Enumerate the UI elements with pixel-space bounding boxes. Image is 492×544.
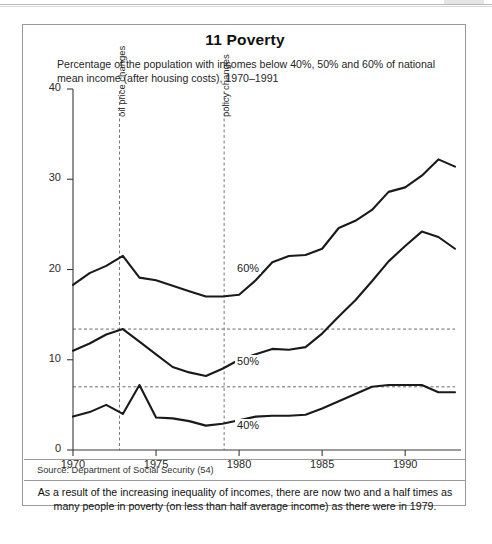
- y-tick-label-0: 0: [37, 442, 61, 454]
- y-tick-label-10: 10: [37, 352, 61, 364]
- figure-caption: As a result of the increasing inequality…: [35, 485, 455, 513]
- series-label-60pct: 60%: [235, 262, 261, 274]
- y-tick-label-40: 40: [37, 81, 61, 93]
- series-line-60pct: [73, 159, 455, 296]
- series-label-40pct: 40%: [235, 419, 261, 431]
- y-tick-label-20: 20: [37, 262, 61, 274]
- figure-container: 11 Poverty Percentage of the population …: [22, 24, 466, 506]
- source-note: Source: Department of Social Security (5…: [37, 465, 214, 475]
- scan-artifact: [444, 0, 484, 4]
- series-line-50pct: [73, 232, 455, 376]
- page-edge-rule: [0, 4, 492, 5]
- series-label-50pct: 50%: [235, 355, 261, 367]
- y-tick-label-30: 30: [37, 171, 61, 183]
- source-divider: [24, 459, 466, 460]
- page-edge-rule-secondary: [0, 6, 492, 7]
- series-line-40pct: [73, 385, 455, 426]
- caption-divider: [24, 480, 466, 481]
- plot-area: oil price changespolicy changes010203040…: [23, 25, 467, 507]
- annotation-label-0: oil price changes: [116, 46, 127, 117]
- annotation-label-1: policy changes: [220, 54, 231, 117]
